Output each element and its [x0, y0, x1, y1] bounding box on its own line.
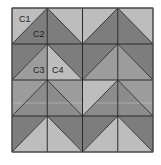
quilt-diagram: C1 C2 C3 C4 [0, 0, 161, 165]
label-c4: C4 [52, 65, 64, 75]
label-c2: C2 [33, 29, 45, 39]
label-c3: C3 [33, 65, 45, 75]
label-c1: C1 [19, 14, 31, 24]
